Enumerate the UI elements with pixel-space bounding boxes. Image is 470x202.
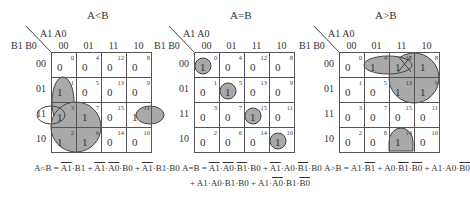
col-header: 11 [389,40,414,51]
col-header: 01 [219,40,244,51]
kmap-cell: 131 [390,78,415,103]
kmap-cell: 50 [365,78,390,103]
kmap-cell: 141 [390,128,415,153]
kmap-title: A=B [230,9,251,21]
kmap-cell: 30 [340,103,365,128]
row-header: 01 [28,83,46,94]
kmap-cell: 81 [415,53,440,78]
col-variable-label: A1 A0 [183,28,209,39]
kmap-cell: 100 [415,128,440,153]
row-header: 10 [316,133,334,144]
kmap-grid: 01 40 120 80 10 51 130 90 30 70 151 110 … [194,52,295,153]
kmap-cell: 130 [102,78,127,103]
col-header: 11 [244,40,269,51]
kmap-cell: 31 [52,103,77,128]
col-header: 10 [414,40,439,51]
kmap-a-greater-b: A>B A1 A0 B1 B0 00 01 11 10 00 01 11 10 … [288,0,438,160]
kmap-cell: 151 [245,103,270,128]
kmap-cell: 40 [220,53,245,78]
kmap-cell: 20 [195,128,220,153]
formula-a-equal-b-line2: + A1·A0·B1·B0 + A1·A0·B1·B0 [190,178,310,188]
kmap-grid: 00 40 120 80 11 50 130 90 31 71 150 111 … [51,52,152,153]
kmap-cell: 00 [52,53,77,78]
kmap-cell: 71 [77,103,102,128]
formula-a-equal-b-line1: A=B = A1·A0·B1·B0 + A1·A0·B1·B0 [182,163,322,173]
kmap-cell: 60 [220,128,245,153]
row-header: 10 [171,133,189,144]
col-header: 01 [364,40,389,51]
kmap-cell: 130 [245,78,270,103]
kmap-cell: 40 [77,53,102,78]
formula-a-greater-b: A>B = A1·B1 + A0·B1·B0 + A1·A0·B0 [324,163,470,173]
kmap-cell: 20 [340,128,365,153]
kmap-cell: 70 [365,103,390,128]
kmap-cell: 140 [102,128,127,153]
col-variable-label: A1 A0 [40,28,66,39]
formula-a-less-b: A<B = A1·B1 + A1·A0·B0 + A1·B1·B0 [34,163,180,173]
row-header: 11 [28,108,46,119]
row-header: 11 [171,108,189,119]
kmap-cell: 10 [340,78,365,103]
kmap-cell: 41 [365,53,390,78]
col-header: 00 [339,40,364,51]
kmap-a-equal-b: A=B A1 A0 B1 B0 00 01 11 10 00 01 11 10 … [143,0,293,160]
row-header: 10 [28,133,46,144]
col-header: 00 [51,40,76,51]
kmap-cell: 121 [390,53,415,78]
kmap-cell: 120 [245,53,270,78]
col-header: 01 [76,40,101,51]
col-variable-label: A1 A0 [328,28,354,39]
kmap-cell: 21 [52,128,77,153]
kmap-cell: 50 [77,78,102,103]
row-variable-label: B1 B0 [154,40,180,51]
row-variable-label: B1 B0 [11,40,37,51]
kmap-title: A>B [375,9,396,21]
kmap-cell: 60 [365,128,390,153]
kmap-cell: 150 [102,103,127,128]
kmap-cell: 30 [195,103,220,128]
kmap-title: A<B [87,9,108,21]
kmap-cell: 120 [102,53,127,78]
col-header: 00 [194,40,219,51]
kmap-cell: 140 [245,128,270,153]
kmap-cell: 11 [52,78,77,103]
kmap-a-less-b: A<B A1 A0 B1 B0 00 01 11 10 00 01 11 10 … [0,0,150,160]
row-header: 00 [171,58,189,69]
kmap-cell: 91 [415,78,440,103]
kmap-cell: 01 [195,53,220,78]
kmap-cell: 61 [77,128,102,153]
kmap-grid: 00 41 121 81 10 50 131 91 30 70 150 110 … [339,52,440,153]
kmap-cell: 110 [415,103,440,128]
row-header: 01 [171,83,189,94]
row-variable-label: B1 B0 [299,40,325,51]
row-header: 00 [28,58,46,69]
kmap-cell: 70 [220,103,245,128]
row-header: 01 [316,83,334,94]
row-header: 00 [316,58,334,69]
kmap-cell: 10 [195,78,220,103]
kmap-cell: 00 [340,53,365,78]
kmap-cell: 150 [390,103,415,128]
row-header: 11 [316,108,334,119]
kmap-cell: 51 [220,78,245,103]
col-header: 11 [101,40,126,51]
